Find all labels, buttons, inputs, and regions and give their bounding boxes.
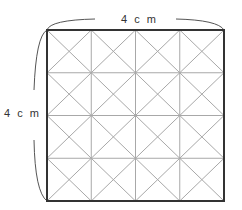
- left-brace-lower: [34, 140, 47, 201]
- top-length-label: 4 c m: [121, 13, 158, 25]
- left-brace: [34, 30, 47, 90]
- left-length-label: 4 c m: [4, 107, 41, 119]
- top-brace-right: [176, 19, 224, 30]
- square-grid-diagram: 4 c m 4 c m: [0, 0, 242, 210]
- grid-lines: [47, 30, 224, 201]
- top-brace: [47, 19, 95, 30]
